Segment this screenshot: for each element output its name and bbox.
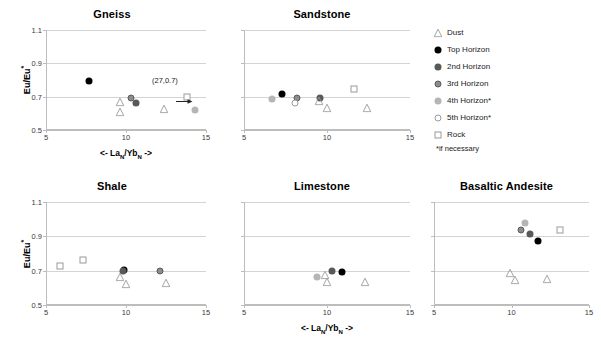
panel-shale: Shale0.50.70.91.151015Eu/Eu* [8, 180, 216, 345]
gridline-y [46, 236, 206, 237]
legend-item-h5: 5th Horizon* [432, 109, 491, 126]
legend-footnote: *if necessary [436, 144, 491, 153]
marker-dust-open-triangle-point [162, 274, 171, 283]
y-axis-title: Eu/Eu* [20, 50, 32, 110]
marker-3rd-horizon-ringed-circle-point [127, 94, 134, 101]
y-tick-label: 1.1 [32, 198, 42, 207]
panel-title: Basaltic Andesite [412, 180, 601, 192]
marker-rock-open-square-point [350, 86, 357, 93]
legend-marker-h4 [432, 95, 444, 107]
plot-area: 0.50.70.91.151015(27,0.7) [46, 30, 206, 130]
panel-gneiss: Gneiss0.50.70.91.151015(27,0.7)Eu/Eu*<- … [8, 8, 216, 170]
marker-4th-horizon-circle-point [269, 96, 276, 103]
plot-area: 51015 [434, 202, 589, 305]
marker-dust-open-triangle-point [543, 270, 552, 279]
x-tick-label: 5 [242, 133, 246, 142]
arrow-right-icon [176, 92, 193, 110]
marker-4th-horizon-circle-point [522, 220, 529, 227]
x-tick-label: 10 [507, 308, 515, 317]
marker-dust-open-triangle-point [323, 99, 332, 108]
legend-marker-h5 [432, 112, 444, 124]
marker-dust-open-triangle-point [323, 272, 332, 281]
gridline-y [46, 30, 206, 31]
plot-area: 0.50.70.91.151015 [46, 202, 206, 305]
y-axis-line [434, 202, 435, 305]
marker-top-horizon-filled-circle-point [338, 269, 345, 276]
panel-basaltic-andesite: Basaltic Andesite51015 [412, 180, 601, 345]
x-tick-label: 10 [323, 308, 331, 317]
marker-4th-horizon-circle [435, 97, 442, 104]
panel-title: Shale [8, 180, 216, 192]
legend-item-label: Dust [447, 28, 463, 37]
legend-item-top: Top Horizon [432, 41, 491, 58]
legend-marker-h3 [432, 78, 444, 90]
x-tick-label: 5 [432, 308, 436, 317]
y-tick-label: 0.9 [32, 232, 42, 241]
data-annotation: (27,0.7) [152, 76, 178, 85]
legend-item-label: 5th Horizon* [447, 113, 491, 122]
x-tick-label: 5 [242, 308, 246, 317]
marker-2nd-horizon-circle [435, 63, 442, 70]
marker-5th-horizon-open-circle [435, 114, 442, 121]
marker-dust-open-triangle-point [510, 270, 519, 279]
marker-rock-open-square-point [57, 262, 64, 269]
gridline-y [46, 63, 206, 64]
y-axis-line [244, 30, 245, 130]
gridline-y [244, 202, 410, 203]
y-tick-label: 0.9 [32, 59, 42, 68]
x-tick-label: 15 [202, 308, 210, 317]
legend-marker-dust [432, 27, 444, 39]
legend-marker-top [432, 44, 444, 56]
legend-item-rock: Rock [432, 126, 491, 143]
gridline-y [46, 202, 206, 203]
x-tick-label: 5 [44, 308, 48, 317]
y-tick-label: 1.1 [32, 26, 42, 35]
marker-top-horizon-filled-circle [435, 46, 442, 53]
marker-dust-open-triangle-point [362, 99, 371, 108]
marker-top-horizon-filled-circle-point [534, 237, 541, 244]
marker-dust-open-triangle-point [115, 92, 124, 101]
panel-title: Limestone [222, 180, 422, 192]
marker-dust-open-triangle-point [115, 102, 124, 111]
legend-item-label: Top Horizon [447, 45, 490, 54]
y-axis-line [46, 30, 47, 130]
legend-item-label: 3rd Horizon [447, 79, 488, 88]
marker-3rd-horizon-ringed-circle [435, 80, 442, 87]
x-tick-label: 10 [323, 133, 331, 142]
x-tick-label: 15 [585, 308, 593, 317]
x-tick-label: 15 [202, 133, 210, 142]
marker-3rd-horizon-ringed-circle-point [517, 227, 524, 234]
marker-5th-horizon-open-circle-point [292, 100, 299, 107]
gridline-y [434, 236, 589, 237]
legend-item-label: 4th Horizon* [447, 96, 491, 105]
y-axis-title: Eu/Eu* [20, 224, 32, 284]
gridline-y [244, 63, 410, 64]
y-axis-line [244, 202, 245, 305]
marker-rock-open-square [435, 131, 442, 138]
y-axis-line [46, 202, 47, 305]
panel-limestone: Limestone51015<- LaN/YbN -> [222, 180, 422, 345]
marker-top-horizon-filled-circle-point [279, 91, 286, 98]
y-tick-label: 0.7 [32, 92, 42, 101]
legend: DustTop Horizon2nd Horizon3rd Horizon4th… [432, 24, 491, 153]
panel-title: Gneiss [8, 8, 216, 20]
y-tick-label: 0.5 [32, 301, 42, 310]
figure-root: Gneiss0.50.70.91.151015(27,0.7)Eu/Eu*<- … [0, 0, 601, 345]
panel-sandstone: Sandstone51015 [222, 8, 422, 170]
x-tick-label: 15 [406, 133, 414, 142]
marker-dust-open-triangle [434, 28, 443, 37]
marker-dust-open-triangle-point [361, 272, 370, 281]
x-tick-label: 10 [122, 133, 130, 142]
marker-2nd-horizon-circle-point [527, 230, 534, 237]
marker-4th-horizon-circle-point [314, 273, 321, 280]
x-axis-title: <- LaN/YbN -> [46, 148, 206, 160]
legend-item-label: 2nd Horizon [447, 62, 490, 71]
marker-dust-open-triangle-point [160, 100, 169, 109]
legend-item-dust: Dust [432, 24, 491, 41]
plot-area: 51015 [244, 30, 410, 130]
gridline-y [244, 30, 410, 31]
legend-marker-h2 [432, 61, 444, 73]
y-tick-label: 0.5 [32, 126, 42, 135]
x-tick-label: 10 [122, 308, 130, 317]
legend-item-h2: 2nd Horizon [432, 58, 491, 75]
